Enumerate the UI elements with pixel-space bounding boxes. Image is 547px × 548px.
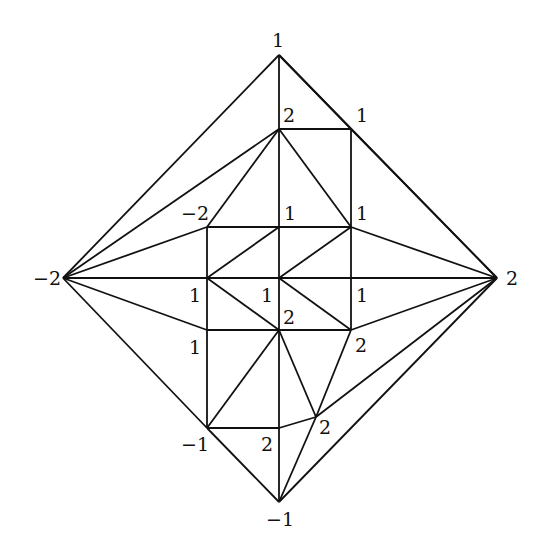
vertex-label-j: 2 [283,306,295,328]
vertex-label-a: 2 [283,104,295,126]
edges-group [63,55,497,502]
vertex-label-f: 1 [189,284,201,306]
vertex-label-h: 1 [356,284,368,306]
vertex-label-e: 1 [356,202,368,224]
vertex-label-c: −2 [181,202,209,224]
edge-bottom-n [279,417,316,502]
vertex-label-left: −2 [33,267,61,289]
vertex-label-n: 2 [319,416,331,438]
vertex-label-i: 1 [189,336,201,358]
labels-group: 1−22−121−211111122−122 [33,29,518,530]
diagram-canvas: 1−22−121−211111122−122 [0,0,547,548]
vertex-label-bottom: −1 [266,508,294,530]
edge-l-j [207,330,279,428]
edge-k-right [351,278,497,330]
edge-b-right [351,129,497,278]
edge-left-a [63,129,279,278]
vertex-label-d: 1 [284,202,296,224]
vertex-label-m: 2 [261,433,273,455]
vertex-label-g: 1 [261,284,273,306]
edge-top-left [63,55,279,278]
edge-j-n [279,330,316,417]
edge-a-c [207,129,279,227]
edge-bottom-right [279,278,497,502]
vertex-label-l: −1 [181,433,209,455]
edge-m-n [279,417,316,428]
edge-left-l [63,278,207,428]
vertex-label-b: 1 [356,104,368,126]
edge-g-e [279,227,351,278]
edge-left-c [63,227,207,278]
edge-e-right [351,227,497,278]
triangulation-diagram: 1−22−121−211111122−122 [0,0,547,548]
vertex-label-right: 2 [506,267,518,289]
vertex-label-k: 2 [355,334,367,356]
vertex-label-top: 1 [272,29,284,51]
edge-left-i [63,278,207,330]
edge-f-d [207,227,279,278]
